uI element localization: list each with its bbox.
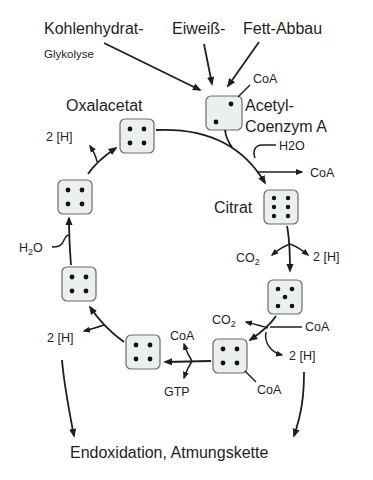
fat-label: Fett-Abbau — [243, 20, 322, 37]
co2-label-1: CO2 — [236, 251, 260, 267]
coa-label-keto: CoA — [305, 320, 330, 334]
protein-label: Eiweiß- — [172, 20, 225, 37]
protein-arrow — [204, 44, 212, 84]
gtp-label: GTP — [164, 385, 190, 399]
2h-label-4: 2 [H] — [46, 130, 72, 144]
acetyl-coa-coa-label: CoA — [253, 72, 278, 86]
oxalacetat-box — [120, 119, 154, 153]
condensation-arrow — [156, 130, 265, 183]
acetyl-label-1: Acetyl- — [245, 97, 294, 114]
malat-box — [58, 180, 92, 214]
h2o-label-citrat: H2O — [279, 139, 305, 153]
carb-label: Kohlenhydrat- — [44, 20, 144, 37]
citric-acid-cycle-diagram: Kohlenhydrat- Glykolyse Eiweiß- Fett-Abb… — [0, 0, 373, 480]
citrat-label: Citrat — [214, 199, 253, 216]
glycolysis-label: Glykolyse — [44, 48, 94, 60]
acetyl-coa-box — [206, 96, 242, 130]
2h-label-3: 2 [H] — [47, 331, 73, 345]
coa-label-succ: CoA — [170, 329, 195, 343]
oxalacetat-label: Oxalacetat — [66, 97, 143, 114]
succinyl-coa-box — [213, 339, 247, 373]
carb-arrow — [104, 43, 200, 90]
citrat-box — [264, 190, 298, 224]
acetyl-label-2: Coenzym A — [245, 118, 327, 135]
output-label: Endoxidation, Atmungskette — [70, 444, 268, 461]
coa-label-citrat: CoA — [310, 166, 335, 180]
h2o-label-malat: H2O — [19, 241, 43, 257]
fumarat-box — [62, 267, 96, 301]
2h-label-1: 2 [H] — [313, 250, 339, 264]
2h-label-2: 2 [H] — [289, 349, 315, 363]
coa-label-succinyl: CoA — [257, 383, 282, 397]
co2-label-2: CO2 — [212, 313, 236, 329]
succinat-box — [126, 335, 160, 369]
